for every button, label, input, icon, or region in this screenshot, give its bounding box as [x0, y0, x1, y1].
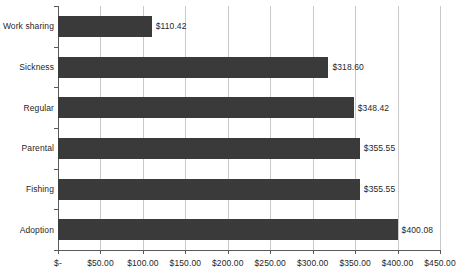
- x-axis-tick-label: $-: [54, 258, 62, 268]
- x-axis-tick: [355, 250, 356, 254]
- gridline: [185, 6, 186, 250]
- bar[interactable]: [58, 138, 360, 159]
- bar[interactable]: [58, 179, 360, 200]
- y-axis-tick: [54, 6, 59, 7]
- x-axis-tick-label: $250.00: [255, 258, 286, 268]
- bar-row: $318.60: [0, 57, 448, 78]
- x-axis-line: [58, 250, 441, 251]
- plot-area: [58, 6, 440, 250]
- x-axis-tick: [313, 250, 314, 254]
- gridline: [355, 6, 356, 250]
- y-axis-tick: [54, 128, 59, 129]
- bar-row: $110.42: [0, 16, 448, 37]
- x-axis-tick-label: $150.00: [170, 258, 201, 268]
- gridline: [440, 6, 441, 250]
- category-label: Fishing: [26, 184, 54, 194]
- bar-row: $355.55: [0, 138, 448, 159]
- x-axis-tick-label: $400.00: [382, 258, 413, 268]
- bar[interactable]: [58, 57, 328, 78]
- gridline: [228, 6, 229, 250]
- gridline: [313, 6, 314, 250]
- y-axis-tick: [54, 209, 59, 210]
- bar-value-label: $355.55: [364, 184, 395, 194]
- x-axis-tick-label: $300.00: [297, 258, 328, 268]
- bar-value-label: $348.42: [358, 103, 389, 113]
- category-label: Regular: [24, 103, 54, 113]
- x-axis-tick-label: $350.00: [339, 258, 370, 268]
- x-axis-tick: [143, 250, 144, 254]
- x-axis-tick: [185, 250, 186, 254]
- y-axis-tick: [54, 47, 59, 48]
- gridline: [270, 6, 271, 250]
- bar[interactable]: [58, 97, 354, 118]
- category-label: Parental: [22, 143, 54, 153]
- bar-value-label: $400.08: [402, 225, 433, 235]
- x-axis-tick: [398, 250, 399, 254]
- category-label: Sickness: [19, 62, 54, 72]
- y-axis-tick: [54, 169, 59, 170]
- category-label: Adoption: [20, 225, 54, 235]
- x-axis-tick: [440, 250, 441, 254]
- x-axis-tick: [270, 250, 271, 254]
- x-axis-tick-label: $100.00: [127, 258, 158, 268]
- x-axis-tick: [100, 250, 101, 254]
- x-axis-tick-label: $200.00: [212, 258, 243, 268]
- x-axis-tick: [228, 250, 229, 254]
- category-label: Work sharing: [3, 21, 54, 31]
- bar-row: $355.55: [0, 179, 448, 200]
- gridline: [143, 6, 144, 250]
- bar[interactable]: [58, 16, 152, 37]
- bar-value-label: $355.55: [364, 143, 395, 153]
- x-axis-tick-label: $450.00: [424, 258, 455, 268]
- x-axis-tick-label: $50.00: [87, 258, 114, 268]
- gridline: [398, 6, 399, 250]
- bar-row: $348.42: [0, 97, 448, 118]
- bar[interactable]: [58, 219, 398, 240]
- gridline: [100, 6, 101, 250]
- bar-value-label: $110.42: [156, 21, 187, 31]
- bar-value-label: $318.60: [332, 62, 363, 72]
- bar-row: $400.08: [0, 219, 448, 240]
- x-axis-tick: [58, 250, 59, 254]
- y-axis-tick: [54, 87, 59, 88]
